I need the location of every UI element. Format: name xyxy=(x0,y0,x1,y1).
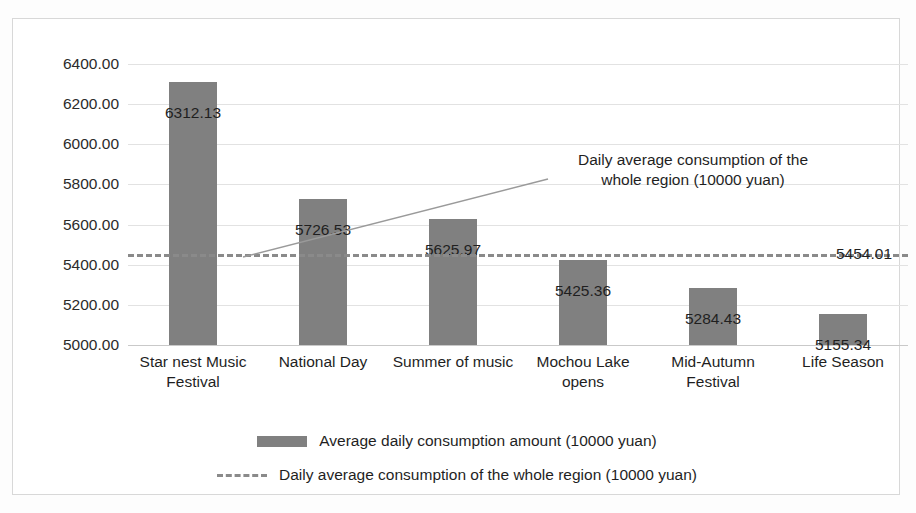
x-axis-category-label: National Day xyxy=(258,352,388,404)
chart-screenshot: 6400.00 6200.00 6000.00 5800.00 5600.00 … xyxy=(0,0,916,513)
annotation-line-1: Daily average consumption of the xyxy=(578,151,808,168)
bar[interactable] xyxy=(429,219,477,345)
bar-value-label: 5284.43 xyxy=(685,310,741,328)
x-axis-category-label: Life Season xyxy=(778,352,908,404)
gridline xyxy=(128,305,908,306)
gridline xyxy=(128,144,908,145)
legend-item-bar-series[interactable]: Average daily consumption amount (10000 … xyxy=(13,424,901,458)
average-line-value-label: 5454.01 xyxy=(836,245,892,263)
bar[interactable] xyxy=(559,260,607,345)
x-axis-category-label: Star nest Music Festival xyxy=(128,352,258,404)
gridline xyxy=(128,104,908,105)
annotation-text: Daily average consumption of the whole r… xyxy=(523,150,863,190)
legend-dashed-line-swatch-icon xyxy=(217,474,267,477)
y-axis-tick: 5200.00 xyxy=(25,296,119,314)
x-axis-category-label: Summer of music xyxy=(388,352,518,404)
x-axis-category-label: Mid-Autumn Festival xyxy=(648,352,778,404)
legend-label: Daily average consumption of the whole r… xyxy=(279,466,697,484)
y-axis-tick: 5400.00 xyxy=(25,256,119,274)
y-axis-tick: 6200.00 xyxy=(25,95,119,113)
bar-value-label: 5726.53 xyxy=(295,221,351,239)
legend-label: Average daily consumption amount (10000 … xyxy=(319,432,656,450)
annotation-line-2: whole region (10000 yuan) xyxy=(601,171,785,188)
legend-item-average-line[interactable]: Daily average consumption of the whole r… xyxy=(13,458,901,492)
x-axis-baseline xyxy=(128,345,908,346)
bar-value-label: 5425.36 xyxy=(555,282,611,300)
y-axis-tick: 5800.00 xyxy=(25,175,119,193)
plot-area: 6312.135726.535625.975425.365284.435155.… xyxy=(128,64,908,345)
annotation-leader-line xyxy=(128,64,908,345)
gridline xyxy=(128,225,908,226)
y-axis-tick: 6400.00 xyxy=(25,55,119,73)
y-axis: 6400.00 6200.00 6000.00 5800.00 5600.00 … xyxy=(23,64,119,345)
bar-value-label: 6312.13 xyxy=(165,104,221,122)
x-axis-category-label: Mochou Lake opens xyxy=(518,352,648,404)
gridline xyxy=(128,64,908,65)
y-axis-tick: 6000.00 xyxy=(25,135,119,153)
x-axis-labels: Star nest Music FestivalNational DaySumm… xyxy=(128,352,908,404)
y-axis-tick: 5000.00 xyxy=(25,336,119,354)
y-axis-tick: 5600.00 xyxy=(25,216,119,234)
legend-bar-swatch-icon xyxy=(257,436,307,447)
chart-legend: Average daily consumption amount (10000 … xyxy=(13,424,901,492)
gridline xyxy=(128,265,908,266)
chart-frame: 6400.00 6200.00 6000.00 5800.00 5600.00 … xyxy=(12,18,900,495)
average-line xyxy=(128,254,908,257)
